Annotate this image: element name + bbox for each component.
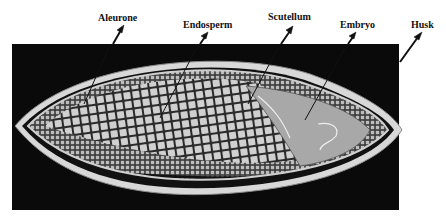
label-aleurone: Aleurone	[98, 12, 137, 23]
label-scutellum: Scutellum	[268, 11, 311, 22]
arrow-aleurone	[113, 30, 121, 44]
arrow-husk	[400, 37, 418, 62]
label-husk: Husk	[411, 19, 434, 30]
arrows	[113, 25, 422, 62]
label-embryo: Embryo	[340, 19, 375, 30]
label-endosperm: Endosperm	[183, 19, 232, 30]
arrow-scutellum	[281, 31, 290, 44]
seed-cross-section	[0, 0, 446, 223]
